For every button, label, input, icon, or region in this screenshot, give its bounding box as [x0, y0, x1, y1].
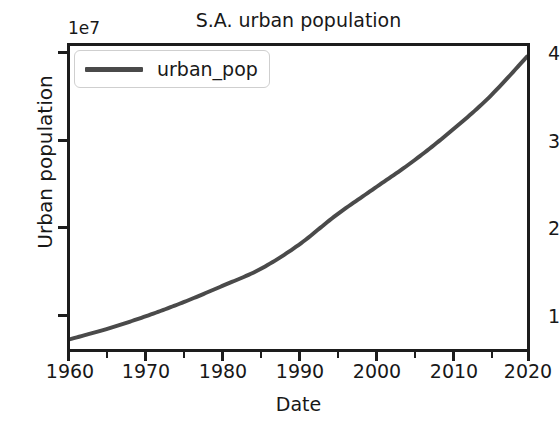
chart-figure: S.A. urban population 1e7 Urban populati… [0, 0, 560, 421]
y-tick-mark-2 [58, 226, 67, 229]
y-axis-label: Urban population [33, 22, 57, 302]
x-tick-label-2020: 2020 [488, 360, 560, 382]
x-minor-tick-1965 [106, 352, 108, 358]
y-tick-mark-1 [58, 314, 67, 317]
y-axis-offset-text: 1e7 [68, 18, 100, 38]
y-tick-mark-4 [58, 51, 67, 54]
x-axis-label: Date [67, 392, 530, 416]
x-tick-label-1970: 1970 [106, 360, 186, 382]
y-tick-mark-3 [58, 139, 67, 142]
x-tick-label-1990: 1990 [260, 360, 340, 382]
chart-title: S.A. urban population [67, 8, 530, 32]
line-chart-svg [70, 46, 527, 349]
x-tick-label-2010: 2010 [414, 360, 494, 382]
legend-color-swatch [85, 67, 143, 72]
series-line-urban-pop [70, 57, 527, 340]
x-tick-label-1960: 1960 [30, 360, 110, 382]
x-tick-label-1980: 1980 [183, 360, 263, 382]
x-minor-tick-1995 [337, 352, 339, 358]
x-minor-tick-1985 [260, 352, 262, 358]
x-minor-tick-2005 [414, 352, 416, 358]
plot-area [67, 43, 530, 352]
x-minor-tick-2015 [491, 352, 493, 358]
chart-legend[interactable]: urban_pop [74, 50, 270, 88]
x-tick-label-2000: 2000 [337, 360, 417, 382]
legend-entry-label: urban_pop [157, 58, 258, 80]
x-minor-tick-1975 [183, 352, 185, 358]
